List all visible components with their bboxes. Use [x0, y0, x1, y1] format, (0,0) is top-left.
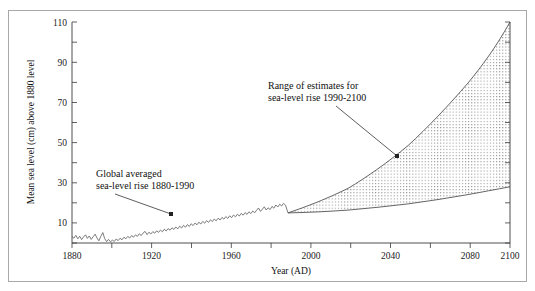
x-tick-label: 2000	[301, 251, 320, 261]
x-tick-label: 1960	[222, 251, 241, 261]
y-tick-label: 70	[58, 98, 68, 108]
annotation-historical-leader	[115, 194, 171, 214]
y-axis-tick-labels: 10 30 50 70 90 110	[53, 18, 67, 229]
x-axis-ticks	[72, 243, 510, 248]
figure-container: 10 30 50 70 90 110 1880 1920 1960	[0, 0, 535, 291]
y-tick-label: 10	[58, 218, 68, 228]
y-axis-ticks-left	[72, 22, 77, 243]
annotation-projection-range: Range of estimates for sea-level rise 19…	[268, 80, 399, 158]
y-tick-label: 30	[58, 178, 68, 188]
x-axis-title: Year (AD)	[271, 266, 311, 277]
x-tick-label: 1920	[142, 251, 161, 261]
stipple-fill	[288, 22, 510, 213]
annotation-projection-range-arrowhead	[395, 154, 399, 158]
projection-range-band	[288, 22, 510, 213]
x-tick-label: 2080	[461, 251, 480, 261]
annotation-historical-arrowhead	[169, 212, 173, 216]
annotation-projection-range-line1: Range of estimates for	[268, 80, 359, 91]
x-tick-label: 2100	[501, 251, 520, 261]
annotation-historical-line1: Global averaged	[96, 168, 162, 179]
annotation-projection-range-leader	[336, 106, 397, 156]
sea-level-chart: 10 30 50 70 90 110 1880 1920 1960	[0, 0, 535, 291]
y-tick-label: 110	[53, 18, 67, 28]
x-axis-tick-labels: 1880 1920 1960 2000 2040 2080 2100	[63, 251, 520, 261]
x-tick-label: 1880	[63, 251, 82, 261]
annotation-historical: Global averaged sea-level rise 1880-1990	[96, 168, 194, 216]
annotation-historical-line2: sea-level rise 1880-1990	[96, 180, 194, 191]
historical-sea-level-curve	[72, 203, 288, 241]
annotation-projection-range-line2: sea-level rise 1990-2100	[268, 92, 366, 103]
x-tick-label: 2040	[381, 251, 400, 261]
y-tick-label: 50	[58, 138, 68, 148]
y-axis-title: Mean sea level (cm) above 1880 level	[26, 59, 37, 204]
y-tick-label: 90	[58, 58, 68, 68]
